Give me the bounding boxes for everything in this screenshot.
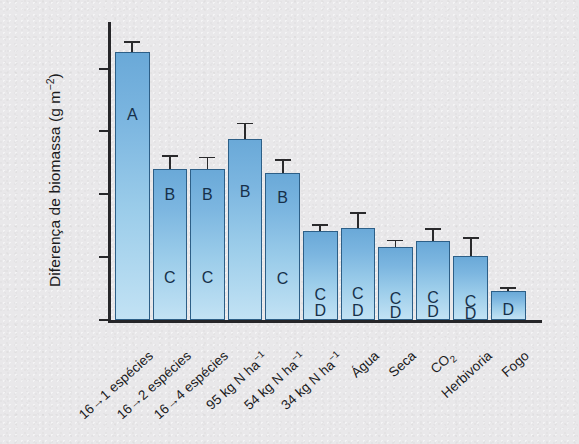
error-bar-stem-6 [357,212,359,228]
y-axis-line [108,22,111,322]
error-bar-cap-6 [350,212,366,214]
x-tick-label-7: Seca [386,348,419,380]
y-tick-50 [99,256,108,258]
significance-letter-1-C: C [153,269,188,287]
error-bar-stem-8 [432,228,434,241]
significance-letter-3-B: B [228,183,263,201]
error-bar-cap-2 [199,157,215,159]
bar-0 [115,52,150,320]
error-bar-stem-3 [244,123,246,139]
bar-3 [228,139,263,320]
y-axis-title-main: Diferença de biomassa (g m [46,91,63,287]
y-axis-title: Diferença de biomassa (g m−2) [44,30,64,330]
significance-letter-9-D: D [453,305,488,323]
significance-letter-4-B: B [265,189,300,207]
significance-letter-6-D: D [341,302,376,320]
y-tick-150 [99,130,108,132]
significance-letter-7-D: D [378,304,413,322]
y-axis-title-exponent: −2 [44,78,56,90]
x-tick-label-10: Fogo [499,348,532,380]
error-bar-cap-9 [463,237,479,239]
x-tick-label-6: Água [348,348,382,381]
error-bar-stem-1 [169,155,171,169]
chart-figure: Diferença de biomassa (g m−2) 0501001502… [0,0,579,444]
error-bar-cap-1 [162,155,178,157]
significance-letter-4-C: C [265,270,300,288]
error-bar-cap-5 [312,224,328,226]
significance-letter-1-B: B [153,186,188,204]
error-bar-stem-9 [470,237,472,256]
error-bar-stem-4 [282,159,284,173]
significance-letter-5-D: D [303,302,338,320]
error-bar-cap-3 [237,123,253,125]
y-tick-200 [99,68,108,70]
significance-letter-10-D: D [491,301,526,319]
significance-letter-2-C: C [190,269,225,287]
significance-letter-8-D: D [416,303,451,321]
significance-letter-2-B: B [190,186,225,204]
y-tick-100 [99,193,108,195]
significance-letter-0-A: A [115,106,150,124]
error-bar-cap-0 [124,41,140,43]
significance-letter-5-C: C [303,286,338,304]
error-bar-cap-4 [275,159,291,161]
error-bar-stem-2 [207,157,209,170]
error-bar-cap-8 [425,228,441,230]
y-axis-title-close: ) [46,73,63,78]
plot-area: 050100150200 ABCBCBBCCDCDCDCDCDD 16→1 es… [108,22,542,322]
y-tick-0 [99,319,108,321]
significance-letter-6-C: C [341,285,376,303]
error-bar-cap-10 [500,287,516,289]
error-bar-cap-7 [387,240,403,242]
